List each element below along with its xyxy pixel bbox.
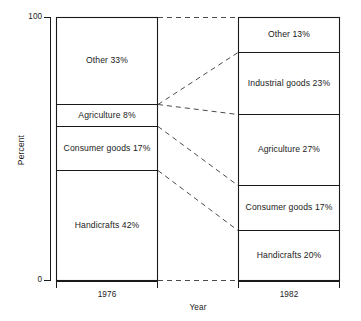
x-axis [57, 281, 340, 288]
connector-industrial [158, 105, 238, 115]
segment-label-1982-handicrafts: Handicrafts 20% [238, 251, 340, 260]
connector-other [158, 53, 238, 105]
y-tick-0: 0 [20, 275, 42, 284]
chart-canvas [0, 0, 361, 321]
x-tick-1982: 1982 [238, 290, 340, 299]
segment-label-1976-handicrafts: Handicrafts 42% [56, 221, 158, 230]
y-axis-title: Percent [16, 120, 26, 180]
segment-label-1976-other: Other 33% [56, 56, 158, 65]
segment-label-1982-agriculture: Agriculture 27% [238, 145, 340, 154]
x-axis-title: Year [148, 303, 248, 312]
connector-lines [158, 18, 238, 281]
segment-label-1982-consumer-goods: Consumer goods 17% [234, 203, 344, 212]
segment-label-1982-industrial-goods: Industrial goods 23% [233, 79, 345, 88]
x-tick-1976: 1976 [56, 290, 158, 299]
y-tick-100: 100 [20, 12, 42, 21]
connector-agriculture [158, 127, 238, 186]
chart-container: 100 0 Percent Other 33% Agriculture 8% C… [0, 0, 361, 321]
connector-consumer [158, 171, 238, 231]
segment-label-1982-other: Other 13% [238, 30, 340, 39]
segment-label-1976-agriculture: Agriculture 8% [56, 111, 158, 120]
segment-label-1976-consumer-goods: Consumer goods 17% [52, 144, 162, 153]
y-axis [44, 17, 51, 281]
